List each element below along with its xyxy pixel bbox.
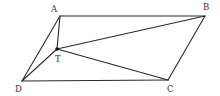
edge-da	[22, 16, 60, 81]
label-d: D	[15, 84, 22, 94]
edges	[22, 16, 205, 81]
label-a: A	[50, 4, 58, 14]
edge-bc	[168, 16, 205, 80]
label-t: T	[55, 54, 61, 64]
label-c: C	[167, 84, 174, 94]
point-t-dot	[55, 47, 59, 51]
edge-tb	[57, 16, 205, 49]
label-b: B	[203, 2, 209, 12]
edge-td	[22, 49, 57, 81]
parallelogram-diagram: A B C D T	[0, 0, 220, 96]
edge-tc	[57, 49, 168, 80]
edge-cd	[22, 80, 168, 81]
